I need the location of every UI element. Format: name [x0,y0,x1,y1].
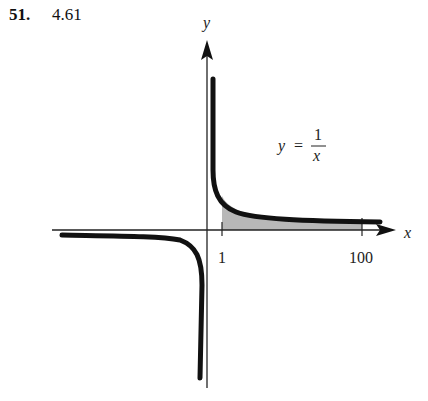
equation-lhs: y [276,137,286,155]
hyperbola-chart: y x 1 100 y = 1 x [0,0,428,401]
equation-equals: = [294,137,303,154]
tick-label-100: 100 [349,249,373,266]
equation-label: y = 1 x [276,126,326,164]
equation-numerator: 1 [314,126,322,143]
tick-label-1: 1 [218,249,226,266]
curve-negative-branch [62,235,202,378]
y-axis-label: y [201,14,211,32]
equation-denominator: x [312,147,320,164]
x-axis-label: x [403,224,411,241]
